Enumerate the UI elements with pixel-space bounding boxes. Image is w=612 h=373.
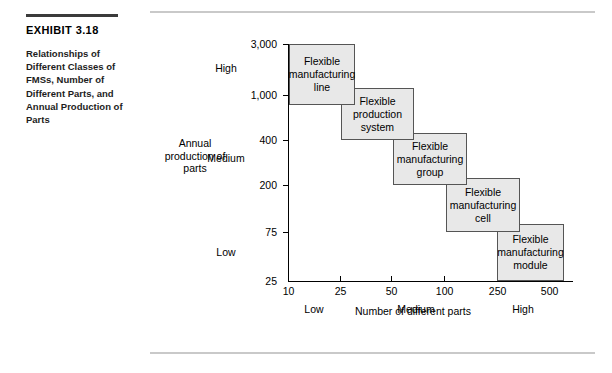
y-tick-label-75: 75: [265, 226, 277, 238]
fms-box-flexible-manufacturing-cell: Flexible manufacturing cell: [446, 178, 520, 232]
fms-box-label: Flexible manufacturing line: [286, 55, 359, 94]
y-tick-label-400: 400: [259, 134, 277, 146]
x-tick-label-10: 10: [283, 285, 295, 297]
y-band-label-low: Low: [216, 246, 235, 258]
x-axis-line: [288, 281, 573, 282]
fms-box-flexible-manufacturing-line: Flexible manufacturing line: [289, 44, 355, 105]
x-tick-100: 100: [444, 276, 445, 282]
x-tick-label-500: 500: [541, 285, 559, 297]
y-tick-75: 75: [283, 232, 289, 233]
x-axis-title: Number of different parts: [348, 305, 478, 318]
x-tick-25: 25: [340, 276, 341, 282]
x-band-label-high: High: [512, 303, 534, 315]
x-tick-label-50: 50: [386, 285, 398, 297]
fms-box-flexible-manufacturing-module: Flexible manufacturing module: [497, 224, 564, 281]
y-tick-label-25: 25: [265, 275, 277, 287]
x-band-label-low: Low: [304, 303, 323, 315]
x-tick-label-100: 100: [436, 285, 454, 297]
y-tick-200: 200: [283, 185, 289, 186]
y-band-label-high: High: [215, 62, 237, 74]
y-tick-label-1000: 1,000: [251, 89, 277, 101]
fms-box-flexible-manufacturing-group: Flexible manufacturing group: [393, 133, 467, 185]
caption-divider-rule: [26, 14, 118, 17]
exhibit-caption-block: EXHIBIT 3.18 Relationships of Different …: [26, 14, 138, 126]
x-tick-label-25: 25: [335, 285, 347, 297]
y-tick-label-3000: 3,000: [251, 38, 277, 50]
panel-bottom-rule: [150, 352, 595, 354]
exhibit-title-text: Relationships of Different Classes of FM…: [26, 47, 138, 126]
panel-top-rule: [150, 11, 595, 13]
x-tick-10: 10: [288, 276, 289, 282]
fms-box-label: Flexible manufacturing cell: [447, 186, 520, 225]
fms-box-label: Flexible manufacturing module: [494, 233, 567, 272]
y-axis-title: Annual production of parts: [158, 137, 232, 175]
x-tick-label-250: 250: [489, 285, 507, 297]
x-tick-50: 50: [391, 276, 392, 282]
exhibit-number-label: EXHIBIT 3.18: [26, 24, 138, 36]
y-tick-label-200: 200: [259, 179, 277, 191]
figure-panel: 3,000 1,000 400 200 75 25 10 25 50 100 2…: [150, 0, 602, 373]
fms-box-label: Flexible manufacturing group: [394, 140, 467, 179]
y-tick-400: 400: [283, 140, 289, 141]
